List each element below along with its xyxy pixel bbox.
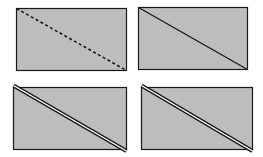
panel-dashed-diagonal [17,9,127,71]
panel-double-diagonal-left [14,86,127,152]
panel-double-diagonal-right [142,86,253,152]
panel-solid-diagonal [139,8,248,70]
diagonal-styles-diagram [0,0,263,157]
